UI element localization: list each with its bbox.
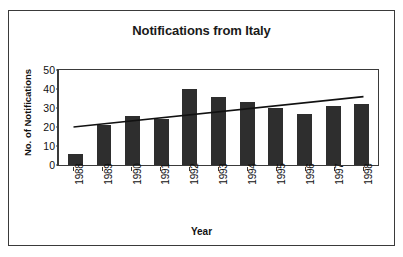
x-axis-title: Year bbox=[9, 226, 394, 237]
y-axis-tick-label: 40 bbox=[43, 83, 55, 95]
bar-slot bbox=[90, 70, 119, 165]
chart-frame: Notifications from Italy No. of Notifica… bbox=[8, 10, 395, 246]
x-axis-tick-slot: 1988 bbox=[59, 167, 88, 219]
x-axis-tick-slot: 1997 bbox=[319, 167, 348, 219]
bar[interactable] bbox=[326, 106, 341, 165]
y-axis-tick-label: 50 bbox=[43, 64, 55, 76]
bar[interactable] bbox=[211, 97, 226, 165]
x-axis-tick-label: 1988 bbox=[73, 163, 84, 184]
x-axis-tick-label: 1995 bbox=[276, 163, 287, 184]
bar-slot bbox=[261, 70, 290, 165]
x-axis-tick-slot: 1996 bbox=[290, 167, 319, 219]
x-axis-tick-label: 1992 bbox=[189, 163, 200, 184]
x-axis-tick-label: 1997 bbox=[334, 163, 345, 184]
x-axis-tick-slot: 1998 bbox=[348, 167, 377, 219]
y-axis-tick-label: 10 bbox=[43, 140, 55, 152]
x-axis-tick-label: 1989 bbox=[102, 163, 113, 184]
x-axis-ticks: 1988198919901991199219931994199519961997… bbox=[57, 167, 379, 219]
bar-slot bbox=[147, 70, 176, 165]
bar-slot bbox=[319, 70, 348, 165]
bar-slot bbox=[176, 70, 205, 165]
bar[interactable] bbox=[240, 102, 255, 165]
bar[interactable] bbox=[268, 108, 283, 165]
x-axis-tick-label: 1994 bbox=[247, 163, 258, 184]
x-axis-tick-slot: 1991 bbox=[146, 167, 175, 219]
bar-slot bbox=[347, 70, 376, 165]
bar[interactable] bbox=[125, 116, 140, 165]
bar-series bbox=[59, 70, 378, 165]
y-axis-tick-label: 30 bbox=[43, 102, 55, 114]
plot-area: 01020304050 bbox=[57, 69, 379, 166]
y-axis-tick-label: 20 bbox=[43, 121, 55, 133]
bar[interactable] bbox=[97, 125, 112, 165]
x-axis-tick-slot: 1994 bbox=[232, 167, 261, 219]
x-axis-tick-slot: 1989 bbox=[88, 167, 117, 219]
bar-slot bbox=[61, 70, 90, 165]
x-axis-tick-label: 1998 bbox=[363, 163, 374, 184]
bar[interactable] bbox=[297, 114, 312, 165]
y-axis-tick-label: 0 bbox=[49, 159, 55, 171]
bar-slot bbox=[233, 70, 262, 165]
x-axis-tick-slot: 1992 bbox=[175, 167, 204, 219]
bar-slot bbox=[118, 70, 147, 165]
bar[interactable] bbox=[354, 104, 369, 165]
x-axis-tick-slot: 1993 bbox=[204, 167, 233, 219]
x-axis-tick-slot: 1995 bbox=[261, 167, 290, 219]
x-axis-tick-label: 1993 bbox=[218, 163, 229, 184]
bar[interactable] bbox=[154, 119, 169, 165]
y-axis-title: No. of Notifications bbox=[22, 53, 33, 173]
bar-slot bbox=[204, 70, 233, 165]
chart-title: Notifications from Italy bbox=[9, 23, 394, 38]
bar[interactable] bbox=[182, 89, 197, 165]
x-axis-tick-label: 1990 bbox=[131, 163, 142, 184]
x-axis-tick-slot: 1990 bbox=[117, 167, 146, 219]
x-axis-tick-label: 1996 bbox=[305, 163, 316, 184]
bar-slot bbox=[290, 70, 319, 165]
x-axis-tick-label: 1991 bbox=[160, 163, 171, 184]
